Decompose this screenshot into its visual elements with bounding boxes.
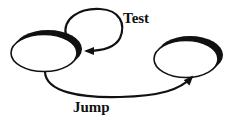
left-state-oval — [11, 35, 77, 72]
left-state-node — [11, 30, 82, 72]
state-diagram — [0, 0, 234, 121]
right-state-oval — [154, 41, 218, 78]
right-state-node — [154, 36, 223, 78]
test-transition-label: Test — [123, 11, 149, 26]
jump-transition-label: Jump — [73, 100, 110, 115]
